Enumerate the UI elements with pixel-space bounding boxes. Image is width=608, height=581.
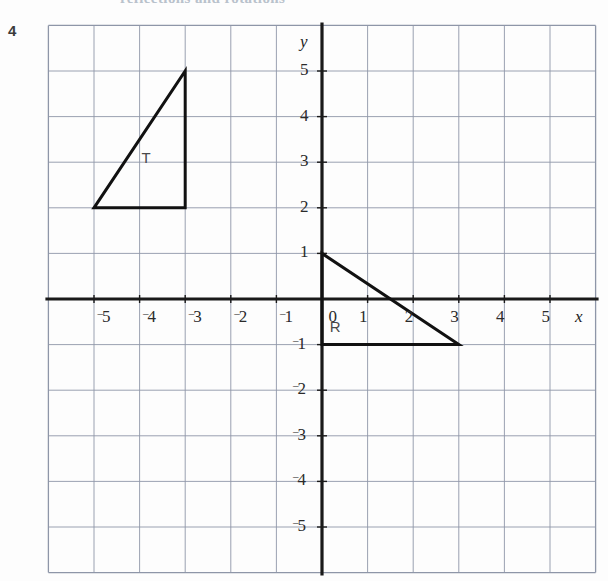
x-tick-label-neg5: –5: [98, 308, 111, 325]
x-tick-label-2: 2: [405, 308, 414, 325]
y-tick-label-neg2: –2: [293, 380, 306, 397]
x-tick-label-neg4: –4: [143, 308, 156, 325]
y-tick-label-1: 1: [300, 243, 309, 260]
x-tick-label-neg2: –2: [234, 308, 247, 325]
y-axis-label: y: [300, 32, 308, 52]
y-tick-label-neg5: –5: [293, 517, 306, 534]
x-axis-label: x: [575, 307, 583, 327]
y-tick-label-neg4: –4: [293, 471, 306, 488]
worksheet-page: reflections and rotations 4 –5–4–3–2–101…: [0, 0, 608, 581]
y-tick-label-neg3: –3: [293, 426, 306, 443]
x-tick-label-neg3: –3: [189, 308, 202, 325]
shape-label-t: T: [141, 149, 150, 166]
x-tick-label-4: 4: [496, 308, 505, 325]
shape-label-r: R: [330, 318, 341, 335]
x-tick-label-neg1: –1: [280, 308, 293, 325]
y-tick-label-2: 2: [300, 198, 309, 215]
x-tick-label-1: 1: [359, 308, 368, 325]
coordinate-grid-graph: [0, 0, 608, 581]
y-tick-label-neg1: –1: [293, 335, 306, 352]
y-tick-label-3: 3: [300, 152, 309, 169]
y-tick-label-5: 5: [300, 61, 309, 78]
x-tick-label-3: 3: [450, 308, 459, 325]
y-tick-label-4: 4: [300, 107, 309, 124]
x-tick-label-5: 5: [542, 308, 551, 325]
